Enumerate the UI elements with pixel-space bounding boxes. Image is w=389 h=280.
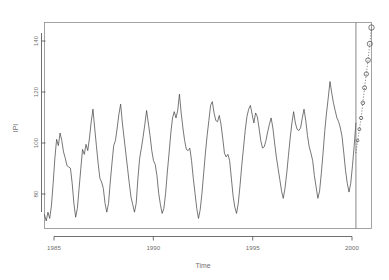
- y-tick-label-80: 80: [32, 190, 39, 197]
- chart-plot-area: 140 120 100 80 1985 1990 1995 2000 IPI T…: [0, 0, 389, 280]
- x-axis-title: Time: [196, 262, 211, 269]
- y-tick-label-100: 100: [32, 137, 39, 148]
- y-tick-label-120: 120: [32, 86, 39, 97]
- x-tick-label-1985: 1985: [47, 244, 61, 251]
- chart-background: [0, 0, 389, 280]
- y-tick-label-140: 140: [32, 35, 39, 46]
- y-axis-title: IPI: [12, 124, 19, 132]
- x-tick-label-1990: 1990: [146, 244, 160, 251]
- x-tick-label-1995: 1995: [246, 244, 260, 251]
- ipi-time-series-chart: 140 120 100 80 1985 1990 1995 2000 IPI T…: [0, 0, 389, 280]
- x-tick-label-2000: 2000: [345, 244, 359, 251]
